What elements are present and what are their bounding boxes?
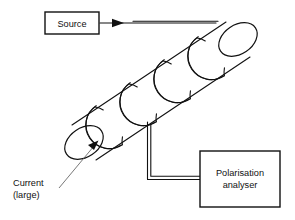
current-label-line1: Current <box>13 178 44 188</box>
analyser-box[interactable]: Polarisation analyser <box>200 151 280 207</box>
beam-direction-arrow <box>112 19 124 27</box>
cylinder-far-end-cap <box>212 16 263 63</box>
source-box-label: Source <box>57 19 86 29</box>
output-tube-outer <box>151 124 200 176</box>
current-label: Current (large) <box>13 178 44 200</box>
cylinder-near-end-cap <box>58 119 109 166</box>
analyser-box-outline <box>200 151 280 207</box>
coil-turn-3 <box>145 57 194 112</box>
output-tube-inner <box>148 122 201 180</box>
analyser-box-label-line2: analyser <box>223 180 258 190</box>
figure-canvas: Source Polarisation analyser Current (la… <box>0 0 295 220</box>
sample-rod-cylinder <box>58 16 263 166</box>
analyser-box-label-line1: Polarisation <box>216 168 264 178</box>
output-beam-tube <box>148 122 201 180</box>
source-box[interactable]: Source <box>45 12 99 34</box>
apparatus-diagram: Source Polarisation analyser Current (la… <box>0 0 295 220</box>
coil-turn-2 <box>111 80 160 135</box>
input-beam-line <box>100 19 218 27</box>
current-label-line2: (large) <box>13 190 40 200</box>
cylinder-bottom-edge <box>96 57 250 160</box>
cylinder-top-edge <box>72 22 226 125</box>
